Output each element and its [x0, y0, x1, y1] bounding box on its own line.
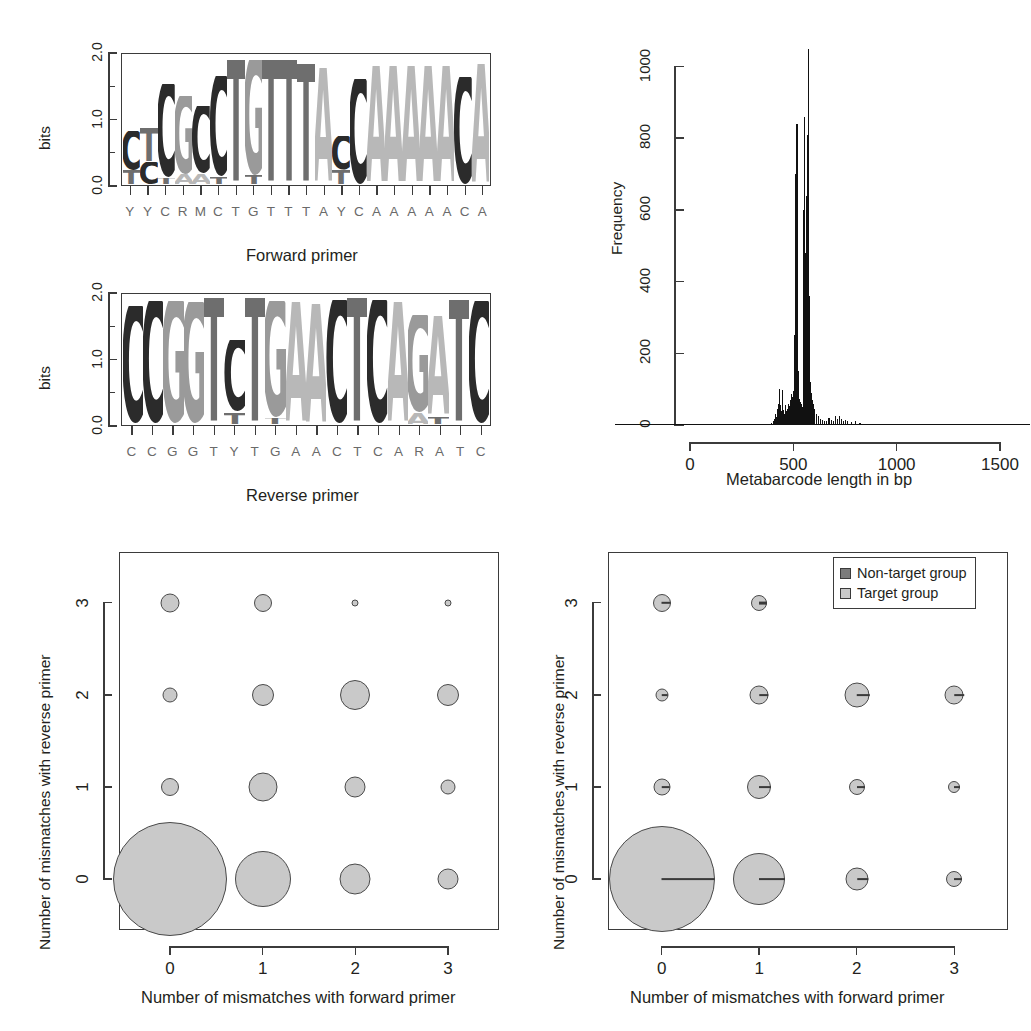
- consensus-base: R: [174, 204, 192, 219]
- logo-column: CT: [224, 295, 244, 425]
- x-tick: [172, 426, 173, 435]
- x-axis-line: [662, 946, 955, 948]
- logo-letter-T: T: [332, 170, 349, 184]
- x-tick-label: 2: [339, 959, 371, 979]
- bubble-non-target: [662, 878, 715, 880]
- x-tick: [214, 426, 215, 435]
- logo-glyph: A: [315, 68, 332, 185]
- logo-column: A: [306, 295, 326, 425]
- logo-glyph: C: [210, 76, 227, 177]
- logo-column: CT: [123, 55, 140, 185]
- legend-label-non-target: Non-target group: [857, 565, 967, 581]
- consensus-base: C: [350, 204, 368, 219]
- logo-glyph: T: [280, 60, 297, 185]
- y-tick-major: [108, 359, 117, 361]
- x-tick: [429, 186, 430, 195]
- logo-letter-T: T: [140, 128, 157, 162]
- y-tick-major: [108, 119, 117, 121]
- histogram-bar: [814, 409, 815, 425]
- logo-glyph: A: [420, 66, 437, 184]
- consensus-base: C: [156, 204, 174, 219]
- x-tick: [316, 426, 317, 435]
- y-tick-label: 1.0: [89, 337, 105, 381]
- figure-canvas: bits 0.01.02.0 CTTCCTGACACTTGTTTTACTCAAA…: [0, 0, 1031, 1031]
- logo-glyph: T: [332, 170, 349, 184]
- logo-letter-C: C: [192, 106, 209, 174]
- logo-glyph: G: [265, 301, 285, 418]
- logo-column: A: [388, 295, 408, 425]
- logo-letter-T: T: [280, 60, 297, 185]
- logo-column: GT: [265, 295, 285, 425]
- logo-column: CA: [192, 55, 209, 185]
- consensus-base: A: [473, 204, 491, 219]
- logo-glyph: T: [262, 60, 279, 185]
- consensus-base: T: [451, 444, 469, 459]
- consensus-base: C: [472, 444, 490, 459]
- bubble-target: [441, 780, 456, 795]
- logo-column: GT: [245, 55, 262, 185]
- hist-y-tick-label: 1000: [636, 39, 653, 91]
- logo-letter-T: T: [245, 175, 262, 184]
- consensus-base: Y: [121, 204, 139, 219]
- bubble-non-target: [662, 602, 671, 604]
- x-tick: [169, 946, 171, 955]
- x-tick: [482, 186, 483, 195]
- hist-x-axis-line: [690, 442, 1000, 444]
- logo-column: C: [454, 55, 471, 185]
- logo-letter-C: C: [350, 79, 367, 184]
- x-tick: [183, 186, 184, 195]
- logo-glyph: A: [385, 66, 402, 184]
- consensus-base: T: [246, 444, 264, 459]
- logo-letter-T: T: [265, 418, 285, 424]
- bubble-target: [162, 687, 177, 702]
- logo-glyph: A: [402, 66, 419, 184]
- bubble-right-legend[interactable]: Non-target group Target group: [833, 557, 976, 609]
- logo-column: A: [420, 55, 437, 185]
- logo-letter-T: T: [449, 300, 469, 425]
- logo-glyph: T: [158, 178, 175, 184]
- y-tick-label: 0.0: [89, 403, 105, 447]
- logo-letter-T: T: [347, 298, 367, 425]
- consensus-base: A: [431, 444, 449, 459]
- x-tick: [447, 186, 448, 195]
- histogram-panel: Frequency 02004006008001000 050010001500…: [520, 0, 1031, 520]
- bubble-non-target: [662, 694, 669, 696]
- x-tick: [465, 186, 466, 195]
- reverse-ylabel: bits: [36, 366, 54, 390]
- y-tick-minor: [108, 152, 115, 153]
- logo-column: CT: [210, 55, 227, 185]
- reverse-primer-panel: bits 0.01.02.0 CCGGTCTTGTAACTCAGAATTC CC…: [0, 240, 520, 520]
- logo-letter-T: T: [158, 178, 175, 184]
- logo-letter-C: C: [158, 84, 175, 178]
- logo-letter-G: G: [163, 301, 183, 424]
- x-tick: [399, 426, 400, 435]
- consensus-base: T: [297, 204, 315, 219]
- y-tick-major: [108, 425, 117, 427]
- logo-column: T: [347, 295, 367, 425]
- logo-letter-C: C: [326, 300, 346, 425]
- x-tick: [218, 186, 219, 195]
- consensus-base: A: [367, 204, 385, 219]
- x-tick: [355, 946, 357, 955]
- legend-item-target[interactable]: Target group: [840, 583, 967, 603]
- bubble-target: [445, 599, 452, 606]
- x-tick: [165, 186, 166, 195]
- x-tick: [236, 186, 237, 195]
- logo-letter-A: A: [437, 66, 454, 184]
- logo-glyph: T: [245, 175, 262, 184]
- y-tick-label: 2.0: [89, 30, 105, 74]
- logo-letter-A: A: [192, 174, 209, 184]
- consensus-base: M: [191, 204, 209, 219]
- histogram-bars: [690, 45, 1000, 425]
- logo-glyph: C: [224, 340, 244, 413]
- logo-column: G: [184, 295, 204, 425]
- logo-letter-C: C: [143, 301, 163, 424]
- x-tick: [193, 426, 194, 435]
- logo-glyph: T: [210, 177, 227, 185]
- logo-glyph: A: [388, 302, 408, 424]
- logo-letter-C: C: [224, 340, 244, 413]
- legend-item-non-target[interactable]: Non-target group: [840, 563, 967, 583]
- consensus-base: A: [390, 444, 408, 459]
- hist-y-tick-label: 600: [636, 182, 653, 234]
- histogram-xlabel: Metabarcode length in bp: [726, 470, 912, 489]
